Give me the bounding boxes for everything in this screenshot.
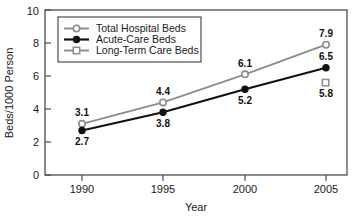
series-acute-marker-1995 [160, 109, 166, 115]
y-tick-label-8: 8 [33, 37, 39, 49]
data-label-acute-2000: 5.2 [238, 95, 252, 106]
data-label-total-1995: 4.4 [156, 86, 170, 97]
open-square-icon [73, 47, 79, 53]
x-tick-label-2005: 2005 [314, 183, 338, 195]
filled-circle-icon [73, 36, 79, 42]
data-label-total-2000: 6.1 [238, 58, 252, 69]
y-tick-label-6: 6 [33, 70, 39, 82]
data-label-total-2005: 7.9 [319, 28, 333, 39]
y-tick-label-4: 4 [33, 103, 39, 115]
x-tick-label-1995: 1995 [151, 183, 175, 195]
y-axis-title: Beds/1000 Person [3, 48, 15, 139]
legend-label-longterm: Long-Term Care Beds [96, 44, 199, 56]
series-acute-marker-2005 [323, 65, 329, 71]
data-label-acute-1995: 3.8 [156, 118, 170, 129]
series-longterm-marker-2005 [322, 79, 328, 85]
series-total-marker-2005 [323, 41, 329, 47]
series-total-marker-2000 [242, 71, 248, 77]
x-tick-label-1990: 1990 [70, 183, 94, 195]
series-long-term-care-beds [322, 79, 328, 85]
x-tick-label-2000: 2000 [233, 183, 257, 195]
line-chart: 0 2 4 6 8 10 Beds/1000 Person 1990 1995 … [0, 0, 359, 220]
y-tick-label-0: 0 [33, 169, 39, 181]
x-axis-title: Year [185, 201, 208, 213]
chart-container: 0 2 4 6 8 10 Beds/1000 Person 1990 1995 … [0, 0, 359, 220]
y-tick-label-10: 10 [27, 5, 39, 17]
chart-legend: Total Hospital Beds Acute-Care Beds Long… [58, 17, 201, 62]
series-total-marker-1990 [79, 121, 85, 127]
data-label-total-1990: 3.1 [75, 107, 89, 118]
open-circle-icon [73, 25, 79, 31]
series-acute-marker-2000 [242, 86, 248, 92]
data-label-longterm-2005: 5.8 [319, 88, 333, 99]
x-axis-ticks [82, 175, 326, 181]
data-label-acute-2005: 6.5 [319, 51, 333, 62]
data-label-acute-1990: 2.7 [75, 136, 89, 147]
y-tick-label-2: 2 [33, 136, 39, 148]
series-total-marker-1995 [160, 99, 166, 105]
series-acute-marker-1990 [79, 127, 85, 133]
